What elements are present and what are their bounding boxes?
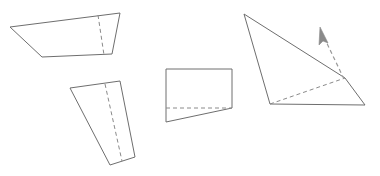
shapes-svg	[0, 0, 380, 176]
diagram-canvas	[0, 0, 380, 176]
